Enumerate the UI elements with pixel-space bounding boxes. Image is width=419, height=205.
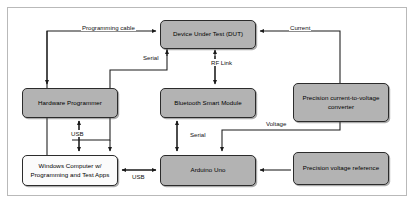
node-precision-current-to-voltage-converter[interactable]: Precision current-to-voltage converter <box>293 83 389 122</box>
node-arduino-uno[interactable]: Arduino Uno <box>160 155 256 186</box>
edge-label-programming-cable: Programming cable <box>81 24 136 31</box>
edge-label-usb-arduino: USB <box>131 173 146 180</box>
wire-current <box>260 31 340 83</box>
node-converter-label: Precision current-to-voltage converter <box>297 94 385 110</box>
node-bluetooth-smart-module-label: Bluetooth Smart Module <box>164 99 252 107</box>
node-dut-label: Device Under Test (DUT) <box>164 30 252 38</box>
block-diagram-figure: Device Under Test (DUT) Hardware Program… <box>0 0 419 205</box>
node-arduino-uno-label: Arduino Uno <box>164 166 252 174</box>
edge-label-serial-dut: Serial <box>142 54 160 61</box>
edge-label-rf-link: RF Link <box>210 59 233 66</box>
edge-label-serial-arduino: Serial <box>189 131 207 138</box>
node-precision-voltage-reference[interactable]: Precision voltage reference <box>293 152 389 185</box>
node-hardware-programmer-label: Hardware Programmer <box>26 99 114 107</box>
edge-label-voltage: Voltage <box>265 120 287 127</box>
node-windows-computer-label: Windows Computer w/ Programming and Test… <box>26 162 114 178</box>
node-dut[interactable]: Device Under Test (DUT) <box>160 20 256 49</box>
edge-label-current: Current <box>289 24 311 31</box>
node-precision-voltage-reference-label: Precision voltage reference <box>297 164 385 172</box>
edge-label-usb-programmer: USB <box>70 130 85 137</box>
node-hardware-programmer[interactable]: Hardware Programmer <box>22 88 118 118</box>
node-windows-computer[interactable]: Windows Computer w/ Programming and Test… <box>22 155 118 186</box>
node-bluetooth-smart-module[interactable]: Bluetooth Smart Module <box>160 88 256 118</box>
